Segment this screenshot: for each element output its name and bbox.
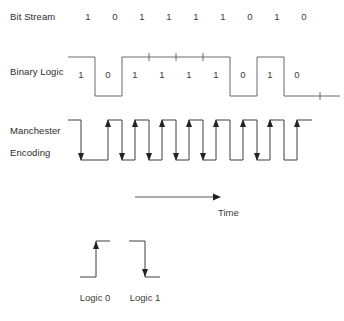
legend-label-logic-0: Logic 0 bbox=[70, 292, 120, 303]
diagram-canvas: Bit Stream Binary Logic Manchester Encod… bbox=[0, 0, 344, 321]
legend-logic1-falling-arrow-icon bbox=[142, 269, 148, 277]
legend-symbols bbox=[0, 0, 344, 321]
legend-label-logic-1: Logic 1 bbox=[120, 292, 170, 303]
legend-logic0-rising-arrow-icon bbox=[93, 241, 99, 249]
